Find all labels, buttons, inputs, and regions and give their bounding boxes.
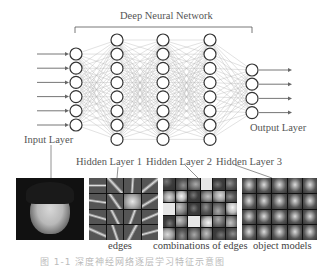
feature-cell — [107, 225, 124, 240]
neuron-node — [111, 34, 123, 46]
feature-cell — [288, 225, 302, 240]
neuron-node — [157, 34, 169, 46]
neuron-node — [157, 48, 169, 60]
feature-cell — [303, 178, 317, 193]
neuron-node — [246, 92, 258, 104]
neuron-node — [204, 119, 216, 131]
neuron-node — [70, 91, 82, 103]
feature-cell — [257, 178, 271, 193]
feature-cell — [188, 191, 200, 203]
hidden-layer-2-label: Hidden Layer 2 — [146, 156, 212, 167]
feature-cell — [213, 203, 225, 215]
neuron-node — [111, 91, 123, 103]
face-image — [16, 178, 84, 240]
feature-cell — [226, 216, 238, 228]
feature-cell — [288, 194, 302, 209]
neuron-node — [246, 107, 258, 119]
feature-cell — [303, 225, 317, 240]
feature-cell — [176, 228, 188, 240]
feature-cell — [142, 225, 159, 240]
feature-cell — [226, 203, 238, 215]
feature-cell — [226, 191, 238, 203]
feature-cell — [163, 178, 175, 190]
feature-cell — [213, 228, 225, 240]
input-layer-label: Input Layer — [24, 134, 73, 145]
feature-cell — [176, 203, 188, 215]
neuron-node — [111, 48, 123, 60]
object-models-feature-grid — [242, 178, 317, 240]
feature-cell — [303, 194, 317, 209]
feature-cell — [163, 216, 175, 228]
neuron-node — [111, 77, 123, 89]
object-models-caption: object models — [253, 240, 312, 251]
edges-feature-grid — [89, 178, 158, 240]
neuron-node — [70, 119, 82, 131]
feature-cell — [142, 194, 159, 209]
feature-cell — [242, 178, 256, 193]
feature-cell — [163, 191, 175, 203]
feature-cell — [201, 228, 213, 240]
feature-cell — [188, 203, 200, 215]
neuron-node — [246, 78, 258, 90]
feature-cell — [226, 178, 238, 190]
neuron-node — [70, 105, 82, 117]
figure-caption: 图 1-1 深度神经网络逐层学习特征示意图 — [40, 255, 225, 268]
neuron-node — [204, 77, 216, 89]
feature-cell — [242, 225, 256, 240]
feature-cell — [288, 178, 302, 193]
feature-cell — [272, 225, 286, 240]
neuron-node — [157, 119, 169, 131]
neuron-node — [157, 77, 169, 89]
feature-cell — [188, 178, 200, 190]
feature-cell — [272, 210, 286, 225]
feature-cell — [89, 225, 106, 240]
network-title: Deep Neural Network — [120, 10, 213, 21]
feature-cell — [163, 203, 175, 215]
feature-cell — [303, 210, 317, 225]
feature-cell — [142, 210, 159, 225]
neuron-node — [111, 105, 123, 117]
feature-cell — [163, 228, 175, 240]
feature-cell — [89, 194, 106, 209]
neuron-node — [157, 91, 169, 103]
edges-caption: edges — [108, 240, 132, 251]
feature-cell — [124, 210, 141, 225]
neuron-node — [111, 119, 123, 131]
neuron-node — [204, 105, 216, 117]
feature-cell — [242, 194, 256, 209]
feature-cell — [188, 216, 200, 228]
feature-cell — [176, 191, 188, 203]
neuron-node — [204, 48, 216, 60]
neuron-node — [204, 62, 216, 74]
neuron-node — [157, 105, 169, 117]
feature-cell — [176, 216, 188, 228]
neuron-node — [70, 76, 82, 88]
feature-cell — [213, 191, 225, 203]
feature-cell — [201, 216, 213, 228]
neuron-node — [157, 133, 169, 145]
feature-cell — [107, 194, 124, 209]
feature-cell — [257, 210, 271, 225]
feature-cell — [242, 210, 256, 225]
neuron-node — [204, 133, 216, 145]
feature-cell — [124, 178, 141, 193]
neuron-node — [204, 91, 216, 103]
network-diagram — [0, 0, 331, 180]
hidden-layer-1-label: Hidden Layer 1 — [76, 156, 142, 167]
feature-cell — [142, 178, 159, 193]
neuron-node — [246, 64, 258, 76]
feature-cell — [107, 178, 124, 193]
feature-cell — [213, 178, 225, 190]
network-bracket — [75, 27, 252, 33]
feature-cell — [201, 203, 213, 215]
neuron-node — [70, 48, 82, 60]
feature-cell — [89, 178, 106, 193]
feature-cell — [201, 191, 213, 203]
neuron-node — [111, 133, 123, 145]
feature-cell — [124, 225, 141, 240]
feature-cell — [124, 194, 141, 209]
feature-cell — [176, 178, 188, 190]
feature-cell — [272, 194, 286, 209]
feature-cell — [89, 210, 106, 225]
neuron-node — [204, 34, 216, 46]
